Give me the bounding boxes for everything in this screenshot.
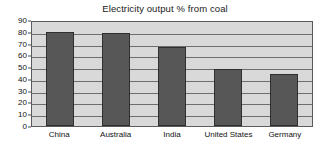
x-axis: ChinaAustraliaIndiaUnited StatesGermany (31, 131, 313, 151)
x-axis-label-united-states: United States (200, 131, 256, 151)
y-axis-tick-label: 70 (18, 41, 27, 49)
y-axis-tick-label: 40 (18, 76, 27, 84)
bar-chart: Electricity output % from coal 010203040… (0, 0, 330, 165)
plot-area (31, 21, 313, 127)
bar-slot (256, 22, 312, 126)
y-axis-tick-label: 10 (18, 111, 27, 119)
y-axis-tick-label: 0 (23, 123, 27, 131)
y-axis-tick-label: 50 (18, 64, 27, 72)
bars-layer (32, 22, 312, 126)
x-axis-label-china: China (31, 131, 87, 151)
chart-title: Electricity output % from coal (0, 3, 330, 14)
y-axis-tick-label: 80 (18, 29, 27, 37)
bar-united-states (214, 69, 242, 126)
bar-germany (270, 74, 298, 126)
bar-slot (144, 22, 200, 126)
bar-australia (102, 33, 130, 126)
x-axis-label-australia: Australia (87, 131, 143, 151)
bar-china (46, 32, 74, 126)
bar-india (158, 47, 186, 126)
bar-slot (32, 22, 88, 126)
y-axis-tick-label: 60 (18, 52, 27, 60)
y-axis-tick-label: 30 (18, 88, 27, 96)
y-axis-tick-label: 20 (18, 99, 27, 107)
x-axis-label-germany: Germany (257, 131, 313, 151)
bar-slot (200, 22, 256, 126)
y-axis: 0102030405060708090 (0, 21, 31, 127)
x-axis-label-india: India (144, 131, 200, 151)
y-axis-tick-label: 90 (18, 17, 27, 25)
bar-slot (88, 22, 144, 126)
